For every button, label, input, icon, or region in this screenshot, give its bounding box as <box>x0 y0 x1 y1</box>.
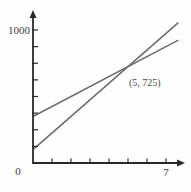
x-axis-arrowhead-icon <box>177 160 185 167</box>
origin-label: 0 <box>13 165 23 177</box>
y-axis-arrowhead-icon <box>30 10 37 18</box>
intersection-point-annotation: (5, 725) <box>129 77 161 88</box>
x-axis-tick-label-7: 7 <box>159 166 173 178</box>
line-chart-figure: 1000 0 7 (5, 725) <box>0 0 191 192</box>
y-axis-tick-label-1000: 1000 <box>3 24 30 36</box>
